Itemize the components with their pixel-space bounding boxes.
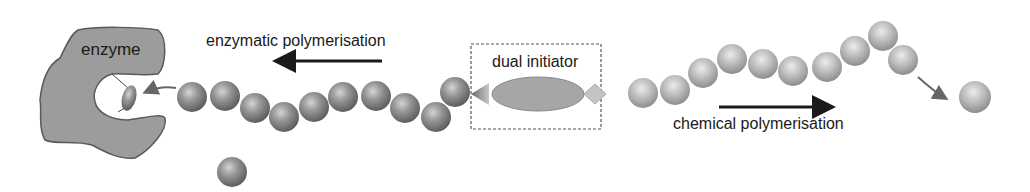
enzymatic-polymer-chain bbox=[177, 77, 470, 132]
initiator-core bbox=[492, 77, 584, 111]
enzyme-active-site bbox=[119, 84, 139, 113]
curved-arrow-to-enzyme-icon bbox=[146, 87, 176, 92]
free-monomer-chemical bbox=[959, 81, 991, 113]
curved-arrow-release-icon bbox=[918, 77, 945, 98]
enzyme-label: enzyme bbox=[81, 40, 141, 60]
initiator-triangle-end-icon bbox=[471, 83, 489, 105]
chemical-polymer-chain bbox=[628, 21, 918, 108]
initiator-diamond-end-icon bbox=[584, 84, 606, 104]
chemical-polymerisation-label: chemical polymerisation bbox=[673, 115, 844, 133]
enzymatic-polymerisation-label: enzymatic polymerisation bbox=[206, 32, 386, 50]
free-monomer-enzymatic bbox=[217, 157, 247, 187]
diagram-canvas bbox=[0, 0, 1030, 192]
enzyme-tether-top bbox=[112, 74, 128, 88]
dual-initiator-label: dual initiator bbox=[492, 53, 578, 71]
